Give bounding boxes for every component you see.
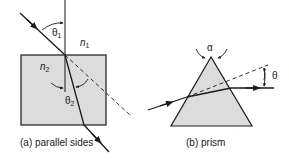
optics-diagram: θ1 n1 n2 θ2 (a) parallel sides α θ (b) p… [0, 0, 289, 162]
panel-b-prism: α θ (b) prism [148, 42, 278, 148]
n1-label: n1 [80, 37, 90, 49]
incident-ray-arrow-icon [27, 20, 35, 28]
theta-label: θ [272, 70, 278, 81]
glass-slab [21, 55, 106, 125]
prism-incident-arrow-icon [160, 103, 170, 106]
panel-a-caption: (a) parallel sides [20, 137, 93, 148]
panel-a-parallel-sides: θ1 n1 n2 θ2 (a) parallel sides [20, 0, 130, 152]
theta1-label: θ1 [52, 27, 62, 39]
alpha-arc-right [218, 49, 227, 58]
alpha-arc-left [196, 49, 205, 58]
alpha-label: α [207, 42, 213, 53]
panel-b-caption: (b) prism [186, 137, 225, 148]
